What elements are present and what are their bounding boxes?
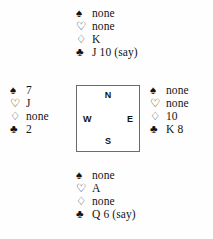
diamond-icon: ♢ bbox=[76, 33, 88, 46]
hand-north-spades-holding: none bbox=[88, 7, 115, 20]
hand-east-hearts-holding: none bbox=[162, 97, 189, 110]
bridge-hand-diagram: ♠ none ♡ none ♢ K ♣ J 10 (say) ♠ 7 ♡ J ♢… bbox=[0, 0, 213, 239]
hand-south-spades-row: ♠ none bbox=[76, 169, 136, 182]
spade-icon: ♠ bbox=[76, 169, 88, 182]
diamond-icon: ♢ bbox=[150, 110, 162, 123]
hand-north: ♠ none ♡ none ♢ K ♣ J 10 (say) bbox=[76, 7, 138, 59]
hand-north-hearts-row: ♡ none bbox=[76, 20, 138, 33]
hand-east-diamonds-holding: 10 bbox=[162, 110, 178, 123]
hand-east-hearts-row: ♡ none bbox=[150, 97, 189, 110]
club-icon: ♣ bbox=[76, 46, 88, 59]
spade-icon: ♠ bbox=[76, 7, 88, 20]
hand-south: ♠ none ♡ A ♢ none ♣ Q 6 (say) bbox=[76, 169, 136, 221]
hand-east-clubs-holding: K 8 bbox=[162, 123, 183, 136]
hand-south-spades-holding: none bbox=[88, 169, 115, 182]
compass-box: N W E S bbox=[76, 85, 140, 152]
hand-west-clubs-row: ♣ 2 bbox=[10, 123, 49, 136]
heart-icon: ♡ bbox=[76, 182, 88, 195]
compass-label-south: S bbox=[105, 137, 111, 146]
heart-icon: ♡ bbox=[76, 20, 88, 33]
hand-west-hearts-row: ♡ J bbox=[10, 97, 49, 110]
compass-label-west: W bbox=[83, 114, 92, 123]
hand-south-diamonds-holding: none bbox=[88, 195, 115, 208]
club-icon: ♣ bbox=[76, 208, 88, 221]
hand-north-spades-row: ♠ none bbox=[76, 7, 138, 20]
hand-east-clubs-row: ♣ K 8 bbox=[150, 123, 189, 136]
heart-icon: ♡ bbox=[150, 97, 162, 110]
hand-north-clubs-row: ♣ J 10 (say) bbox=[76, 46, 138, 59]
spade-icon: ♠ bbox=[10, 84, 22, 97]
hand-south-clubs-holding: Q 6 (say) bbox=[88, 208, 136, 221]
compass-label-north: N bbox=[105, 91, 112, 100]
hand-west-hearts-holding: J bbox=[22, 97, 31, 110]
heart-icon: ♡ bbox=[10, 97, 22, 110]
hand-south-diamonds-row: ♢ none bbox=[76, 195, 136, 208]
hand-east: ♠ none ♡ none ♢ 10 ♣ K 8 bbox=[150, 84, 189, 136]
hand-west-spades-holding: 7 bbox=[22, 84, 32, 97]
club-icon: ♣ bbox=[10, 123, 22, 136]
hand-south-hearts-row: ♡ A bbox=[76, 182, 136, 195]
hand-west-diamonds-holding: none bbox=[22, 110, 49, 123]
hand-west: ♠ 7 ♡ J ♢ none ♣ 2 bbox=[10, 84, 49, 136]
diamond-icon: ♢ bbox=[76, 195, 88, 208]
spade-icon: ♠ bbox=[150, 84, 162, 97]
hand-west-clubs-holding: 2 bbox=[22, 123, 32, 136]
hand-north-diamonds-holding: K bbox=[88, 33, 100, 46]
hand-north-clubs-holding: J 10 (say) bbox=[88, 46, 138, 59]
hand-west-diamonds-row: ♢ none bbox=[10, 110, 49, 123]
hand-south-clubs-row: ♣ Q 6 (say) bbox=[76, 208, 136, 221]
hand-east-spades-row: ♠ none bbox=[150, 84, 189, 97]
compass-label-east: E bbox=[127, 114, 133, 123]
diamond-icon: ♢ bbox=[10, 110, 22, 123]
hand-north-diamonds-row: ♢ K bbox=[76, 33, 138, 46]
club-icon: ♣ bbox=[150, 123, 162, 136]
hand-south-hearts-holding: A bbox=[88, 182, 100, 195]
hand-west-spades-row: ♠ 7 bbox=[10, 84, 49, 97]
hand-east-spades-holding: none bbox=[162, 84, 189, 97]
hand-north-hearts-holding: none bbox=[88, 20, 115, 33]
hand-east-diamonds-row: ♢ 10 bbox=[150, 110, 189, 123]
